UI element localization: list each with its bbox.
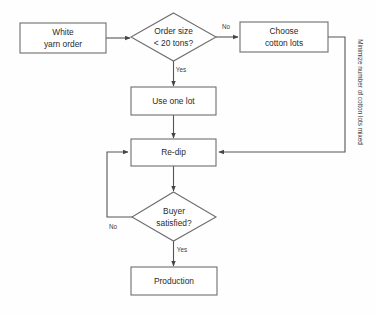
node-choose-cotton-lots-line1: Choose [270,26,299,36]
node-choose-cotton-lots-line2: cotton lots [265,38,303,48]
node-order-size-line2: < 20 tons? [154,38,194,48]
node-production-label: Production [154,276,194,286]
node-white-yarn-order-line2: yarn order [44,39,82,49]
node-white-yarn-order-line1: White [52,27,74,37]
node-buyer-satisfied-line1: Buyer [163,206,185,216]
flowchart-svg: White yarn order Order size < 20 tons? C… [0,0,377,314]
edge-label-buyer-yes: Yes [177,246,187,253]
node-buyer-satisfied-line2: satisfied? [156,218,192,228]
edge-label-buyer-no: No [109,223,118,230]
node-order-size-line1: Order size [154,26,193,36]
node-buyer-satisfied-decision[interactable] [132,192,216,241]
node-use-one-lot-label: Use one lot [152,96,195,106]
edge-buyer-no-to-redip-left-loop [107,152,133,217]
annotation-minimize-cotton-lots: Minimize number of cotton lots mixed [357,39,364,145]
edge-label-order-size-yes: Yes [176,66,186,73]
flowchart-canvas: White yarn order Order size < 20 tons? C… [0,0,377,314]
edge-label-order-size-no: No [222,23,231,30]
node-re-dip-label: Re-dip [161,147,186,157]
edge-choose-to-redip-right-loop [219,37,345,152]
